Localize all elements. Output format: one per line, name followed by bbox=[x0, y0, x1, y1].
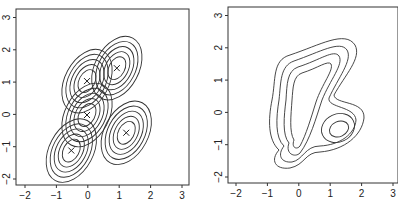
center-x-marker bbox=[114, 65, 120, 71]
y-tick-label: −1 bbox=[213, 139, 224, 151]
x-tick-label: 1 bbox=[116, 190, 122, 201]
right-x-axis: −2−10123 bbox=[230, 183, 396, 199]
y-tick-label: −1 bbox=[1, 141, 12, 153]
x-tick-label: 0 bbox=[85, 190, 91, 201]
x-tick-label: −2 bbox=[230, 188, 242, 199]
left-kernel-contours bbox=[36, 28, 162, 191]
y-tick-label: −2 bbox=[213, 171, 224, 183]
y-tick-label: 2 bbox=[213, 45, 224, 51]
x-tick-label: 0 bbox=[296, 188, 302, 199]
y-tick-label: 2 bbox=[1, 47, 12, 53]
center-x-marker bbox=[68, 148, 74, 154]
right-plot-frame bbox=[228, 7, 398, 183]
y-tick-label: −2 bbox=[1, 173, 12, 185]
right-y-axis: −2−10123 bbox=[213, 12, 228, 182]
y-tick-label: 0 bbox=[213, 109, 224, 115]
x-tick-label: −1 bbox=[51, 190, 63, 201]
center-x-marker bbox=[123, 130, 129, 136]
left-kernel-plot: −2−10123 −2−10123 bbox=[1, 9, 189, 201]
y-tick-label: 1 bbox=[1, 79, 12, 85]
x-tick-label: −1 bbox=[262, 188, 274, 199]
x-tick-label: 1 bbox=[327, 188, 333, 199]
x-tick-label: −2 bbox=[19, 190, 31, 201]
right-density-contours bbox=[270, 39, 364, 169]
y-tick-label: 3 bbox=[213, 12, 224, 18]
x-tick-label: 3 bbox=[179, 190, 185, 201]
y-tick-label: 3 bbox=[1, 14, 12, 20]
figure: −2−10123 −2−10123 −2−10123 −2−10123 bbox=[0, 0, 398, 211]
left-y-axis: −2−10123 bbox=[1, 14, 16, 184]
center-x-marker bbox=[84, 112, 90, 118]
x-tick-label: 2 bbox=[148, 190, 154, 201]
y-tick-label: 1 bbox=[213, 77, 224, 83]
left-x-axis: −2−10123 bbox=[19, 185, 185, 201]
x-tick-label: 2 bbox=[359, 188, 365, 199]
y-tick-label: 0 bbox=[1, 111, 12, 117]
mode-contour-inner bbox=[327, 118, 351, 140]
density-contour-1 bbox=[270, 39, 364, 169]
density-contour-4 bbox=[291, 63, 332, 148]
x-tick-label: 3 bbox=[390, 188, 396, 199]
center-x-marker bbox=[84, 78, 90, 84]
right-density-plot: −2−10123 −2−10123 bbox=[213, 7, 398, 199]
